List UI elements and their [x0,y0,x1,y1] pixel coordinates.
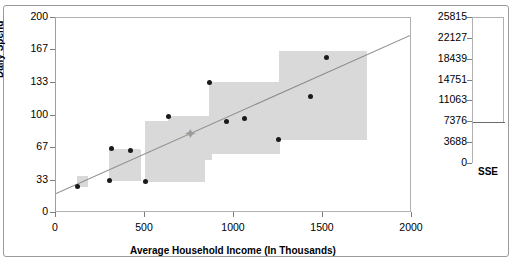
x-axis-title: Average Household Income (In Thousands) [55,245,411,256]
sse-tick-mark [467,100,472,101]
sse-tick-label: 18439 [425,52,467,64]
data-point[interactable] [107,178,112,183]
x-tick-mark [322,212,323,217]
sse-tick-label: 22127 [425,31,467,43]
sse-tick-mark [467,80,472,81]
sse-tick-mark [467,59,472,60]
plot-area[interactable]: ✦ [56,18,410,211]
data-point[interactable] [166,114,171,119]
centroid-marker[interactable]: ✦ [184,133,197,134]
x-tick-mark [144,212,145,217]
data-point[interactable] [109,146,114,151]
sse-tick-label: 11063 [425,93,467,105]
x-tick-label: 1500 [300,221,344,233]
x-tick-mark [55,212,56,217]
chart-root: Daily Spend 03367100133167200 ✦ 05001000… [0,0,515,265]
sse-tick-mark [467,142,472,143]
sse-tick-mark [467,38,472,39]
sse-tick-label: 25815 [425,10,467,22]
sse-bar-fill [473,122,505,165]
x-tick-label: 0 [33,221,77,233]
y-tick-label: 33 [14,173,48,185]
y-axis-title: Daily Spend [0,21,5,78]
sse-tick-label: 3688 [425,135,467,147]
y-tick-label: 67 [14,140,48,152]
data-point[interactable] [276,137,281,142]
x-tick-mark [411,212,412,217]
scatter-plot-panel[interactable]: ✦ [55,17,411,212]
residual-square [279,51,368,140]
sse-tick-mark [467,17,472,18]
y-tick-label: 0 [14,205,48,217]
sse-tick-label: 0 [425,156,467,168]
y-tick-label: 167 [14,42,48,54]
x-tick-label: 1000 [211,221,255,233]
x-tick-label: 2000 [389,221,433,233]
x-tick-mark [233,212,234,217]
sse-bar-panel[interactable] [472,17,504,163]
y-tick-label: 100 [14,108,48,120]
data-point[interactable] [143,179,148,184]
sse-tick-mark [467,121,472,122]
data-point[interactable] [207,80,212,85]
data-point[interactable] [75,184,80,189]
x-tick-label: 500 [122,221,166,233]
sse-tick-mark [467,163,472,164]
y-tick-label: 200 [14,10,48,22]
sse-tick-label: 7376 [425,114,467,126]
sse-axis-title: SSE [468,166,508,177]
sse-tick-label: 14751 [425,73,467,85]
y-tick-label: 133 [14,75,48,87]
data-point[interactable] [324,55,329,60]
